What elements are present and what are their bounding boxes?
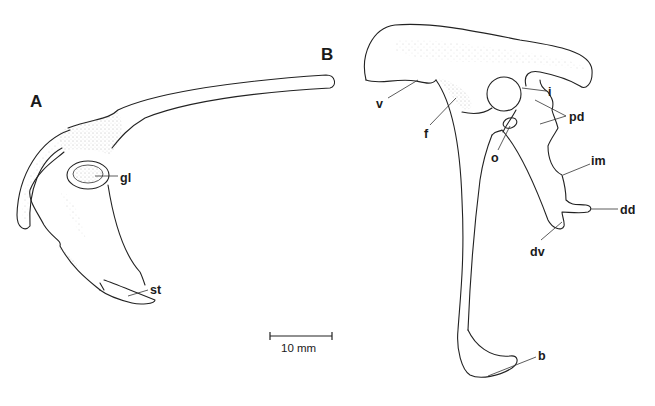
fossa-stipple	[438, 78, 472, 110]
leader-pd-2	[540, 116, 566, 124]
leader-i	[522, 88, 546, 91]
crest-stipple	[395, 40, 585, 70]
panel-b: B v f i pd o im dd	[321, 24, 635, 377]
label-st: st	[150, 283, 162, 297]
leader-f	[430, 98, 456, 125]
label-o: o	[491, 151, 499, 165]
panel-a: A gl st	[17, 75, 335, 304]
label-dd: dd	[620, 203, 635, 217]
label-dv: dv	[530, 245, 545, 259]
leader-b	[488, 357, 536, 376]
crest-underside-outline	[366, 80, 436, 83]
sternal-piece-outline	[100, 280, 155, 304]
articular-head	[487, 77, 521, 111]
shaft-outer-outline	[436, 80, 517, 377]
shoulder-stipple	[58, 112, 122, 155]
foramen	[502, 116, 519, 130]
label-i: i	[548, 85, 551, 99]
panel-b-letter: B	[321, 45, 333, 64]
label-v: v	[376, 97, 383, 111]
label-f: f	[424, 127, 429, 141]
label-b: b	[538, 349, 546, 363]
coracoid-inner-stipple	[60, 190, 86, 240]
glenoid-fossa	[73, 165, 103, 183]
coracoid-stipple	[55, 245, 78, 268]
sternal-joint-line	[100, 283, 104, 290]
panel-a-letter: A	[30, 92, 42, 111]
label-gl: gl	[120, 171, 131, 185]
shaft-right-outline	[468, 135, 492, 330]
leader-pd-1	[535, 100, 566, 116]
leader-im	[563, 164, 590, 175]
strut-outline	[492, 80, 591, 229]
figure-canvas: A gl st B	[0, 0, 655, 406]
leader-v	[388, 80, 418, 98]
scale-bar: 10 mm	[270, 332, 332, 354]
coracoid-inner-outline	[108, 185, 145, 285]
label-pd: pd	[569, 110, 584, 124]
scale-bar-label: 10 mm	[281, 342, 316, 354]
label-im: im	[591, 154, 606, 168]
